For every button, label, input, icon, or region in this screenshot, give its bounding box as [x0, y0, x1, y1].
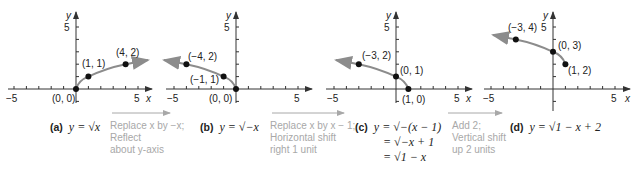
svg-text:5: 5 [541, 22, 547, 33]
svg-text:x: x [465, 93, 472, 104]
caption-b: (b)y = √−x [200, 120, 259, 135]
svg-text:(0, 0): (0, 0) [209, 93, 232, 104]
svg-text:5: 5 [384, 22, 390, 33]
transform-note-3: Add 2; Vertical shift up 2 units [452, 120, 506, 156]
svg-text:(0, 1): (0, 1) [400, 65, 423, 76]
svg-text:5: 5 [224, 22, 230, 33]
svg-text:5: 5 [294, 93, 300, 104]
svg-text:y: y [542, 10, 549, 21]
svg-text:y: y [385, 10, 392, 21]
caption-a: (a)y = √x [50, 120, 100, 135]
svg-text:(0, 3): (0, 3) [558, 40, 581, 51]
svg-text:(4, 2): (4, 2) [116, 47, 139, 58]
transform-note-1: Replace x by −x; Reflect about y-axis [110, 120, 184, 156]
svg-text:(1, 0): (1, 0) [402, 94, 425, 105]
svg-text:x: x [145, 93, 152, 104]
svg-text:(−3, 2): (−3, 2) [362, 50, 391, 61]
caption-d: (d)y = √1 − x + 2 [510, 120, 601, 135]
caption-c: (c)y = √−(x − 1) = √−x + 1 = √1 − x [355, 120, 441, 165]
graph-d: y 5 −5 5 x (1, 2) (0, 3) (−3, 4) [483, 10, 631, 111]
svg-text:(0, 0): (0, 0) [52, 93, 75, 104]
y-axis-label: y [65, 10, 72, 21]
svg-text:−5: −5 [327, 93, 339, 104]
svg-text:5: 5 [134, 93, 140, 104]
svg-text:−5: −5 [167, 93, 179, 104]
svg-text:(1, 1): (1, 1) [82, 58, 105, 69]
svg-text:−5: −5 [483, 93, 495, 104]
svg-text:5: 5 [454, 93, 460, 104]
svg-text:−5: −5 [6, 93, 18, 104]
svg-text:y: y [225, 10, 232, 21]
svg-text:(−1, 1): (−1, 1) [190, 74, 219, 85]
svg-text:x: x [624, 93, 631, 104]
graph-c: y 5 −5 5 x (1, 0) (0, 1) (−3, 2) [326, 10, 472, 105]
svg-text:5: 5 [64, 22, 70, 33]
graph-a: y 5 −5 5 x (0, 0) (1, 1) (4, 2) [6, 10, 152, 104]
svg-text:5: 5 [611, 93, 617, 104]
transform-note-2: Replace x by x − 1; Horizontal shift rig… [270, 120, 355, 156]
svg-text:(1, 2): (1, 2) [568, 65, 591, 76]
graph-b: y 5 −5 5 (0, 0) (−1, 1) (−4, 2) [164, 10, 312, 104]
svg-text:(−4, 2): (−4, 2) [188, 51, 217, 62]
svg-text:(−3, 4): (−3, 4) [508, 22, 537, 33]
